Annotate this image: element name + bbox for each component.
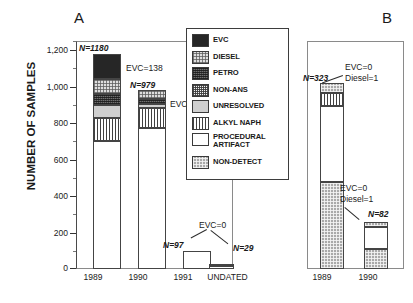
y-tick-minor	[73, 141, 76, 142]
y-tick-0	[70, 268, 76, 269]
bar-segment-procedural-artifact	[183, 251, 211, 269]
legend-swatch-petro-icon	[192, 67, 209, 80]
y-tick-minor	[73, 178, 76, 179]
legend-label-alkyl-naph: ALKYL NAPH	[213, 117, 261, 127]
legend-item-petro[interactable]: PETRO	[192, 67, 284, 82]
y-tick-200	[70, 233, 76, 234]
bar-segment-non-detect	[320, 83, 344, 93]
x-label-1989-panel-a: 1989	[73, 272, 113, 282]
annotation-evc-1989-panel-b: EVC=0	[345, 62, 372, 72]
legend-swatch-non-detect-icon	[192, 156, 209, 169]
legend-item-diesel[interactable]: DIESEL	[192, 51, 284, 66]
x-label-1989-panel-b: 1989	[300, 272, 344, 282]
legend-swatch-unresolved-icon	[192, 100, 209, 113]
annotation-diesel-1989-panel-b: Diesel=1	[345, 73, 378, 83]
bar-undated-panel-a[interactable]	[209, 264, 234, 269]
y-tick-minor	[73, 41, 76, 42]
bar-segment-non-detect-lower	[364, 249, 388, 269]
legend-swatch-diesel-icon	[192, 51, 209, 64]
y-tick-label-0: 0	[28, 263, 68, 273]
bar-segment-unresolved	[93, 105, 121, 118]
y-tick-label-200: 200	[28, 228, 68, 238]
legend-swatch-procedural-artifact-icon	[192, 133, 209, 146]
y-tick-minor	[73, 214, 76, 215]
annotation-n-1990-panel-a: N=979	[130, 80, 155, 90]
bar-segment-alkyl-naph	[93, 118, 121, 142]
bar-segment-procedural-artifact	[138, 128, 166, 269]
legend-item-evc[interactable]: EVC	[192, 34, 284, 49]
bar-segment-procedural-artifact	[93, 141, 121, 269]
legend-label-unresolved: UNRESOLVED	[213, 100, 264, 110]
bar-1989-panel-a[interactable]	[93, 54, 121, 269]
bar-1989-panel-b[interactable]	[320, 83, 344, 269]
y-tick-1000	[70, 87, 76, 88]
legend-item-unresolved[interactable]: UNRESOLVED	[192, 100, 284, 115]
x-label-1990-panel-a: 1990	[118, 272, 158, 282]
y-tick-600	[70, 160, 76, 161]
annotation-diesel-1990-panel-b: Diesel=1	[340, 194, 373, 204]
bar-1990-panel-a[interactable]	[138, 90, 166, 269]
x-label-undated-panel-a: UNDATED	[195, 272, 260, 282]
x-label-1990-panel-b: 1990	[346, 272, 390, 282]
annotation-evc-1991-panel-a: EVC=0	[199, 220, 226, 230]
annotation-n-1991-panel-a: N=97	[163, 240, 184, 250]
bar-segment-diesel	[93, 79, 121, 94]
legend-label-non-ans: NON-ANS	[213, 84, 248, 94]
bar-segment-procedural-artifact	[364, 227, 388, 249]
y-tick-minor	[73, 68, 76, 69]
bar-segment-procedural-artifact	[320, 106, 344, 182]
y-tick-1200	[70, 50, 76, 51]
legend-swatch-non-ans-icon	[192, 84, 209, 97]
bar-segment-evc	[93, 54, 121, 79]
legend-label-petro: PETRO	[213, 67, 239, 77]
legend-item-alkyl-naph[interactable]: ALKYL NAPH	[192, 117, 284, 132]
y-tick-minor	[73, 251, 76, 252]
y-tick-400	[70, 196, 76, 197]
annotation-n-undated-panel-a: N=29	[233, 243, 254, 253]
bar-segment-diesel	[138, 90, 166, 99]
legend-item-non-ans[interactable]: NON-ANS	[192, 84, 284, 99]
legend-label-diesel: DIESEL	[213, 51, 240, 61]
annotation-n-1990-panel-b: N=82	[368, 209, 389, 219]
panel-b-letter: B	[382, 9, 392, 26]
y-tick-label-1200: 1,200	[28, 45, 68, 55]
annotation-evc-1989-panel-a: EVC=138	[126, 63, 163, 73]
figure-root: NUMBER OF SAMPLES A 1,200 1,000 800 600 …	[0, 0, 413, 303]
bar-1991-panel-a[interactable]	[183, 251, 211, 269]
y-tick-label-400: 400	[28, 191, 68, 201]
y-tick-minor	[73, 105, 76, 106]
legend-label-evc: EVC	[213, 34, 228, 44]
bar-segment-procedural-artifact	[209, 266, 234, 269]
legend-swatch-alkyl-naph-icon	[192, 117, 209, 130]
y-tick-800	[70, 123, 76, 124]
annotation-evc-1990-panel-b: EVC=0	[340, 183, 367, 193]
y-tick-label-1000: 1,000	[28, 82, 68, 92]
legend-item-procedural-artifact[interactable]: PROCEDURAL ARTIFACT	[192, 133, 284, 154]
bar-segment-alkyl-naph	[138, 108, 166, 128]
legend-swatch-evc-icon	[192, 34, 209, 47]
legend-label-non-detect: NON-DETECT	[213, 156, 262, 166]
bar-1990-panel-b[interactable]	[364, 222, 388, 269]
bar-segment-petro	[93, 94, 121, 105]
y-tick-label-600: 600	[28, 155, 68, 165]
legend-item-non-detect[interactable]: NON-DETECT	[192, 156, 284, 171]
annotation-n-1989-panel-a: N=1180	[79, 43, 108, 53]
bar-segment-alkyl-naph	[320, 93, 344, 106]
legend: EVC DIESEL PETRO NON-ANS UNRESOLVED ALKY…	[186, 28, 289, 180]
y-tick-label-800: 800	[28, 118, 68, 128]
panel-a-letter: A	[74, 9, 84, 26]
legend-label-procedural-artifact: PROCEDURAL ARTIFACT	[213, 133, 284, 150]
